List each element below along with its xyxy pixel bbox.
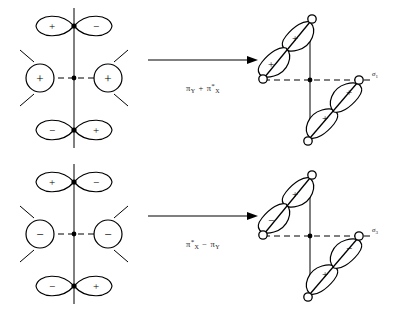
sign-top-right: − <box>93 176 99 188</box>
node-top <box>71 179 76 184</box>
bond-left-upper <box>20 206 34 218</box>
sign-bottom-left: − <box>49 124 55 136</box>
product-orbital-bottom: + − + − σ3 <box>248 158 394 310</box>
term2-subscript: X <box>215 88 220 94</box>
sigma-subscript: 1 <box>375 74 378 79</box>
hook-lower-end <box>355 76 363 84</box>
hook-lower-tip <box>304 293 312 301</box>
transform-label-top: πY+π*X <box>148 82 258 94</box>
hook-upper-tip <box>308 15 316 23</box>
center-dot <box>308 234 313 239</box>
sign-lower-inner: + <box>322 268 328 280</box>
sign-top-left: + <box>49 20 55 32</box>
orbital-scheme-bottom: + − − + − − π*X−πY <box>0 156 394 312</box>
reactant-orbital-bottom: + − − + − − <box>10 158 150 310</box>
sigma-subscript: 3 <box>375 230 378 235</box>
node-bottom <box>71 283 76 288</box>
sign-bottom-right: + <box>93 124 99 136</box>
sign-circle-left: + <box>36 71 43 86</box>
sign-circle-right: + <box>104 71 111 86</box>
bond-left-lower <box>20 94 34 106</box>
sign-upper-inner: + <box>292 188 298 200</box>
transform-arrow-top: πY+π*X <box>148 48 258 106</box>
product-label-top: σ1 <box>372 70 378 79</box>
hook-upper-end <box>259 231 267 239</box>
product-orbital-top: + + + + σ1 <box>248 2 394 154</box>
hook-lower-tip <box>304 137 312 145</box>
node-bottom <box>71 127 76 132</box>
orbital-scheme-top: + − − + + + πY+π*X <box>0 0 394 156</box>
sign-upper-outer: − <box>268 214 274 226</box>
bond-right-upper <box>114 206 128 218</box>
transform-label-bottom: π*X−πY <box>148 238 258 250</box>
bond-right-lower <box>114 94 128 106</box>
sign-bottom-right: + <box>93 280 99 292</box>
sign-top-left: + <box>49 176 55 188</box>
hook-upper-end <box>259 75 267 83</box>
transform-operator: + <box>195 83 206 93</box>
term2-subscript: Y <box>215 244 220 250</box>
node-top <box>71 23 76 28</box>
hook-upper-tip <box>308 171 316 179</box>
sign-lower-outer: − <box>346 242 352 254</box>
sign-lower-inner: + <box>322 112 328 124</box>
sign-circle-right: − <box>104 227 111 242</box>
reactant-orbital-top: + − − + + + <box>10 2 150 154</box>
sign-lower-outer: + <box>346 86 352 98</box>
bond-right-upper <box>114 50 128 62</box>
center-dot <box>72 76 77 81</box>
bond-left-lower <box>20 250 34 262</box>
transform-arrow-bottom: π*X−πY <box>148 204 258 262</box>
sign-circle-left: − <box>36 227 43 242</box>
sign-top-right: − <box>93 20 99 32</box>
bond-left-upper <box>20 50 34 62</box>
sign-bottom-left: − <box>49 280 55 292</box>
center-dot <box>308 78 313 83</box>
hook-lower-end <box>355 232 363 240</box>
bond-right-lower <box>114 250 128 262</box>
sign-upper-inner: + <box>292 32 298 44</box>
sign-upper-outer: + <box>268 58 274 70</box>
transform-operator: − <box>199 239 210 249</box>
center-dot <box>72 232 77 237</box>
product-label-bottom: σ3 <box>372 226 378 235</box>
